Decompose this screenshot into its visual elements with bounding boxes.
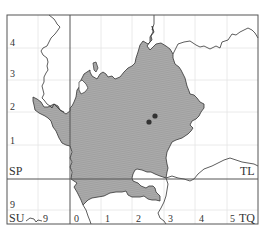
record-dot bbox=[152, 113, 157, 118]
bottom-tick-3: 3 bbox=[168, 213, 173, 224]
bottom-tick-4: 4 bbox=[199, 213, 204, 224]
grid-label-sp: SP bbox=[9, 164, 23, 178]
region-notch bbox=[93, 62, 98, 72]
grid-label-su: SU bbox=[9, 211, 25, 225]
bottom-tick-1: 1 bbox=[105, 213, 110, 224]
left-tick-2: 2 bbox=[10, 101, 15, 112]
record-dot bbox=[146, 119, 151, 124]
left-tick-9: 9 bbox=[10, 199, 15, 210]
bottom-tick-9: 9 bbox=[43, 213, 48, 224]
left-tick-1: 1 bbox=[10, 135, 15, 146]
left-tick-3: 3 bbox=[10, 68, 15, 79]
bottom-tick-2: 2 bbox=[136, 213, 141, 224]
distribution-map: 4 3 2 1 9 SP TL SU TQ 9 0 1 2 3 4 5 bbox=[0, 0, 264, 235]
bottom-tick-0: 0 bbox=[74, 213, 79, 224]
left-tick-4: 4 bbox=[10, 37, 15, 48]
grid-label-tq: TQ bbox=[239, 211, 255, 225]
grid-label-tl: TL bbox=[240, 164, 255, 178]
bottom-tick-5: 5 bbox=[230, 213, 235, 224]
